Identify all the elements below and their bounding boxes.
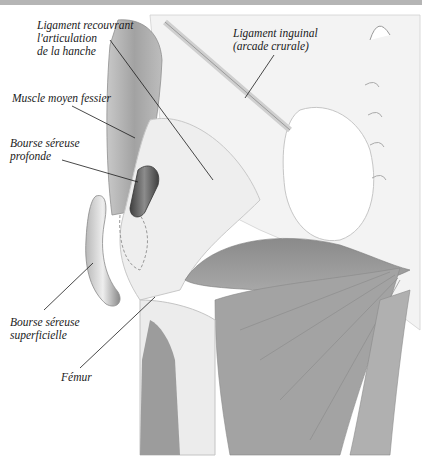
label-bourse-superficielle: Bourse séreuse superficielle: [10, 316, 80, 342]
label-bourse-profonde: Bourse séreuse profonde: [10, 137, 80, 163]
label-muscle-moyen-fessier: Muscle moyen fessier: [12, 92, 111, 105]
label-femur: Fémur: [61, 371, 92, 384]
label-ligament-hanche: Ligament recouvrant l'articulation de la…: [37, 19, 133, 58]
hip-anatomy-illustration: [0, 0, 422, 459]
label-ligament-inguinal: Ligament inguinal (arcade crurale): [233, 27, 318, 53]
